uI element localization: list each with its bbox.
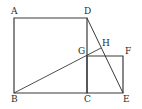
geometry-figure — [0, 0, 142, 109]
square-ABCD — [14, 18, 87, 93]
square-CEFG — [87, 56, 123, 93]
label-H: H — [102, 39, 110, 48]
label-F: F — [125, 47, 131, 56]
segment-BH — [14, 48, 101, 93]
label-G: G — [78, 47, 85, 56]
label-D: D — [84, 7, 91, 16]
label-B: B — [11, 95, 18, 104]
label-A: A — [11, 7, 18, 16]
label-E: E — [123, 95, 130, 104]
label-C: C — [84, 95, 91, 104]
